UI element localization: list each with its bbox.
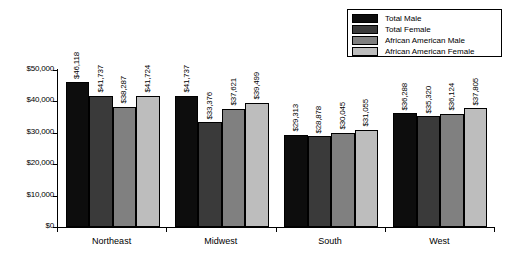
bar bbox=[89, 96, 113, 227]
legend-item: African American Female bbox=[352, 46, 497, 56]
x-axis-tick-mark bbox=[166, 227, 167, 232]
bar-value-label: $38,287 bbox=[120, 76, 128, 104]
legend-label: African American Male bbox=[385, 36, 465, 45]
y-axis-tick-label: $20,000 bbox=[26, 158, 54, 167]
x-axis-category-label: Midwest bbox=[166, 236, 275, 246]
legend-label: African American Female bbox=[385, 47, 474, 56]
legend-swatch bbox=[352, 14, 378, 23]
y-axis-tick-label: $40,000 bbox=[26, 95, 54, 104]
bar-value-label: $41,737 bbox=[183, 65, 191, 93]
bar bbox=[464, 108, 488, 227]
x-axis-tick-mark bbox=[385, 227, 386, 232]
bar-value-label: $39,499 bbox=[253, 72, 261, 100]
y-axis-tick-label: $30,000 bbox=[26, 127, 54, 136]
x-axis-tick-mark bbox=[57, 227, 58, 232]
bar bbox=[393, 113, 417, 227]
x-axis-category-label: Northeast bbox=[57, 236, 166, 246]
bar bbox=[355, 130, 379, 228]
legend-item: Total Female bbox=[352, 24, 497, 34]
x-axis-tick-mark bbox=[276, 227, 277, 232]
bar-value-label: $46,118 bbox=[73, 52, 81, 79]
bar-value-label: $29,313 bbox=[292, 104, 300, 132]
bar-value-label: $37,621 bbox=[230, 78, 238, 106]
bar bbox=[175, 96, 199, 227]
plot-area: $46,118$41,737$38,287$41,724$41,737$33,3… bbox=[58, 60, 494, 227]
legend-label: Total Male bbox=[385, 14, 421, 23]
bar bbox=[245, 103, 269, 227]
y-axis-tick-label: $0 bbox=[46, 221, 55, 230]
bar bbox=[284, 135, 308, 227]
legend-label: Total Female bbox=[385, 25, 431, 34]
bar bbox=[417, 116, 441, 227]
bar-chart: $0$10,000$20,000$30,000$40,000$50,000 No… bbox=[0, 0, 509, 264]
bar bbox=[440, 114, 464, 227]
bar bbox=[198, 122, 222, 227]
bar-value-label: $37,805 bbox=[472, 78, 480, 106]
bar bbox=[113, 107, 137, 227]
bar bbox=[331, 133, 355, 227]
bar-value-label: $30,045 bbox=[339, 102, 347, 130]
bar-value-label: $35,320 bbox=[425, 86, 433, 114]
bar-value-label: $31,055 bbox=[362, 99, 370, 127]
y-axis-tick-label: $50,000 bbox=[26, 64, 54, 73]
legend-swatch bbox=[352, 47, 378, 56]
bar-value-label: $41,724 bbox=[144, 65, 152, 93]
bar-value-label: $36,124 bbox=[448, 83, 456, 111]
bar bbox=[308, 136, 332, 227]
y-axis-tick-label: $10,000 bbox=[26, 190, 54, 199]
legend-swatch bbox=[352, 36, 378, 45]
bar bbox=[222, 109, 246, 227]
bar bbox=[136, 96, 160, 227]
bar-value-label: $41,737 bbox=[97, 65, 105, 93]
legend-swatch bbox=[352, 25, 378, 34]
x-axis-tick-mark bbox=[494, 227, 495, 232]
legend-item: African American Male bbox=[352, 35, 497, 45]
bar bbox=[66, 82, 90, 227]
x-axis-category-label: West bbox=[385, 236, 494, 246]
bar-value-label: $33,376 bbox=[206, 92, 214, 120]
chart-legend: Total MaleTotal FemaleAfrican American M… bbox=[347, 9, 502, 57]
bar-value-label: $36,288 bbox=[401, 83, 409, 111]
x-axis-category-label: South bbox=[276, 236, 385, 246]
legend-item: Total Male bbox=[352, 13, 497, 23]
bar-value-label: $28,878 bbox=[315, 106, 323, 134]
